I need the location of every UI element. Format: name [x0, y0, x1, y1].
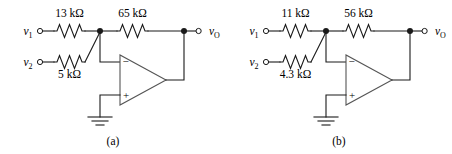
circuit-panel-a: 13 kΩ v1 5 kΩ v2 65 kΩ − +	[0, 0, 226, 154]
circuit-panel-b: 11 kΩ v1 4.3 kΩ v2 56 kΩ − +	[226, 0, 452, 154]
opamp-noninverting-sign: +	[349, 89, 355, 101]
ground-icon	[88, 117, 112, 125]
circuit-figure: 13 kΩ v1 5 kΩ v2 65 kΩ − +	[0, 0, 452, 154]
resistor-r2-label: 4.3 kΩ	[280, 68, 312, 80]
resistor-rf-label: 65 kΩ	[118, 7, 147, 19]
resistor-r1-label: 13 kΩ	[55, 7, 84, 19]
circuit-schematic-b: 11 kΩ v1 4.3 kΩ v2 56 kΩ − +	[226, 0, 452, 154]
resistor-rf-label: 56 kΩ	[344, 7, 373, 19]
resistor-r1-symbol	[54, 25, 85, 38]
output-terminal-vo[interactable]	[422, 28, 427, 33]
input-label-v2: v2	[23, 56, 32, 71]
opamp-noninverting-sign: +	[123, 89, 129, 101]
input-terminal-v1[interactable]	[37, 28, 42, 33]
wire-r2-diagonal-to-node	[311, 32, 326, 62]
wire-opamp-output-to-node	[392, 31, 410, 80]
input-label-v2: v2	[249, 56, 258, 71]
wire-noninverting-to-ground	[100, 95, 120, 117]
resistor-r1-label: 11 kΩ	[281, 7, 309, 19]
caption-a: (a)	[107, 135, 120, 148]
resistor-r2-label: 5 kΩ	[58, 68, 81, 80]
ground-icon	[314, 117, 338, 125]
output-terminal-vo[interactable]	[196, 28, 201, 33]
wire-opamp-output-to-node	[166, 31, 184, 80]
input-terminal-v2[interactable]	[263, 59, 268, 64]
wire-node-to-inverting-input	[326, 31, 346, 62]
resistor-r1-symbol	[280, 25, 311, 38]
input-label-v1: v1	[249, 25, 258, 40]
output-label-vo: vO	[435, 25, 446, 40]
input-terminal-v2[interactable]	[37, 59, 42, 64]
input-label-v1: v1	[23, 25, 32, 40]
caption-b: (b)	[332, 135, 346, 148]
resistor-r2-symbol	[54, 56, 85, 69]
wire-node-to-inverting-input	[100, 31, 120, 62]
input-terminal-v1[interactable]	[263, 28, 268, 33]
wire-noninverting-to-ground	[326, 95, 346, 117]
circuit-schematic-a: 13 kΩ v1 5 kΩ v2 65 kΩ − +	[0, 0, 226, 154]
opamp-inverting-sign: −	[348, 55, 354, 67]
opamp-inverting-sign: −	[122, 55, 128, 67]
resistor-rf-symbol	[343, 25, 374, 38]
resistor-rf-symbol	[117, 25, 148, 38]
output-label-vo: vO	[209, 25, 220, 40]
wire-r2-diagonal-to-node	[85, 32, 100, 62]
resistor-r2-symbol	[280, 56, 311, 69]
